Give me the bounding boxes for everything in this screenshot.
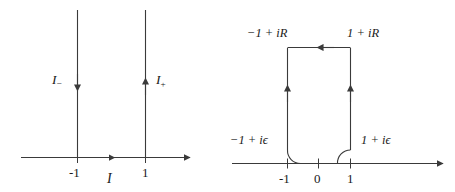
label-minus-one-plus-iR: −1 + iR: [247, 27, 287, 40]
contour-right-indentation-arc: [337, 150, 350, 164]
left-axis-group: [21, 152, 190, 163]
label-minus-one-plus-iepsilon: −1 + iϵ: [230, 134, 268, 147]
right-tick-label-zero: 0: [314, 172, 321, 185]
left-axis-label: I: [107, 172, 112, 186]
figure-root: I− I+ -1 1 I −1 + iR 1 + iR −1 + iϵ 1 + …: [0, 0, 455, 192]
right-tick-label-minus-one: -1: [279, 172, 290, 185]
right-tick-label-one: 1: [347, 172, 354, 185]
left-tick-label-minus-one: -1: [69, 166, 80, 179]
contour-left-indentation-arc: [287, 150, 300, 164]
label-I-plus: I+: [156, 73, 166, 89]
label-I-minus: I−: [52, 73, 62, 89]
rectangular-contour: [287, 48, 350, 164]
label-one-plus-iR: 1 + iR: [347, 27, 379, 40]
left-panel-graphics: [0, 0, 455, 192]
left-tick-label-one: 1: [142, 166, 149, 179]
label-one-plus-iepsilon: 1 + iϵ: [361, 134, 390, 147]
